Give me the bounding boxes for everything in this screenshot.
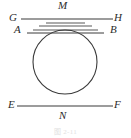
tangent-lines-group xyxy=(17,19,113,106)
vertex-label-m: M xyxy=(58,0,67,11)
vertex-label-g: G xyxy=(9,12,17,23)
vertex-label-n: N xyxy=(59,110,66,121)
chords-group xyxy=(27,23,104,33)
vertex-label-e: E xyxy=(8,99,15,110)
vertex-label-a: A xyxy=(14,24,21,35)
circle-shape xyxy=(33,30,97,94)
vertex-label-h: H xyxy=(114,12,122,23)
figure-caption: 图 2-11 xyxy=(0,128,131,136)
circle-group xyxy=(33,30,97,94)
vertex-label-f: F xyxy=(114,99,121,110)
geometry-figure: G M H A B E N F 图 2-11 xyxy=(0,0,131,138)
vertex-label-b: B xyxy=(110,24,117,35)
